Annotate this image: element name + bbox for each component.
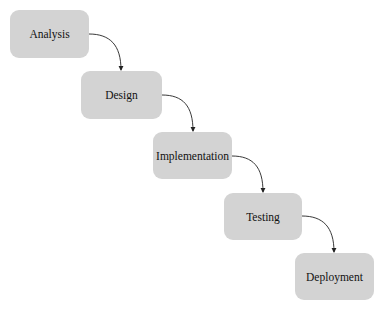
node-implementation-label: Implementation [156,150,229,162]
edge-design-implementation [162,95,193,131]
node-deployment-label: Deployment [306,271,363,283]
edge-implementation-testing [232,156,263,192]
node-design-label: Design [105,89,138,101]
edge-testing-deployment [302,216,334,252]
node-deployment: Deployment [295,253,374,300]
node-testing: Testing [224,193,302,240]
node-analysis-label: Analysis [29,28,69,40]
node-analysis: Analysis [10,10,89,58]
node-design: Design [81,71,162,119]
node-implementation: Implementation [153,132,232,179]
edge-analysis-design [89,34,121,70]
node-testing-label: Testing [246,211,280,223]
